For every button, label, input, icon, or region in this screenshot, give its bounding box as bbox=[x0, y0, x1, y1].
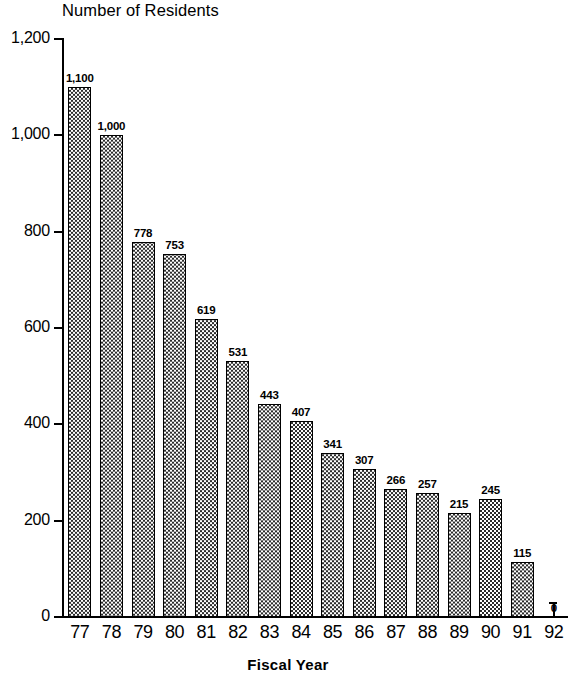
bar-value-label: 1,000 bbox=[85, 120, 137, 132]
bar-value-label: 257 bbox=[401, 478, 453, 490]
x-axis-tick-label: 80 bbox=[157, 622, 193, 643]
x-axis-tick-label: 77 bbox=[62, 622, 98, 643]
bar-value-label: 341 bbox=[307, 438, 359, 450]
x-axis-tick-label: 85 bbox=[315, 622, 351, 643]
x-axis-tick-label: 86 bbox=[346, 622, 382, 643]
bar-value-label: 215 bbox=[433, 498, 485, 510]
bar bbox=[68, 87, 91, 617]
bar-value-label: 1,100 bbox=[54, 72, 106, 84]
bar-value-label: 753 bbox=[149, 239, 201, 251]
bar-value-label: 115 bbox=[496, 547, 548, 559]
x-axis-tick-label: 83 bbox=[251, 622, 287, 643]
y-axis-tick-label: 1,000 bbox=[0, 125, 50, 143]
y-axis-tick-label: 200 bbox=[0, 511, 50, 529]
bar bbox=[384, 489, 407, 617]
bar bbox=[416, 493, 439, 617]
y-axis-tick-mark bbox=[54, 327, 63, 329]
y-axis-tick-label-text: 400 bbox=[24, 414, 50, 432]
bar-value-label: 245 bbox=[465, 484, 517, 496]
y-axis-tick-mark bbox=[54, 423, 63, 425]
bar bbox=[100, 135, 123, 617]
bar-value-label: 778 bbox=[117, 227, 169, 239]
x-axis-tick-label: 90 bbox=[473, 622, 509, 643]
y-axis-tick-label-text: 1,200 bbox=[11, 29, 50, 47]
bar-value-label: 0 bbox=[528, 602, 576, 614]
y-axis-tick-label-text: 1,000 bbox=[11, 125, 50, 143]
x-axis-tick-label: 88 bbox=[409, 622, 445, 643]
bar-value-label: 531 bbox=[212, 346, 264, 358]
y-axis-tick-label: 600 bbox=[0, 318, 50, 336]
bar-value-label: 443 bbox=[243, 389, 295, 401]
bar bbox=[321, 453, 344, 617]
bar bbox=[353, 469, 376, 617]
x-axis-tick-label: 89 bbox=[441, 622, 477, 643]
x-axis-tick-label: 92 bbox=[536, 622, 572, 643]
x-axis-tick-label: 82 bbox=[220, 622, 256, 643]
y-axis-tick-label: 400 bbox=[0, 414, 50, 432]
bar-value-label: 407 bbox=[275, 406, 327, 418]
y-axis-tick-label-text: 800 bbox=[24, 222, 50, 240]
x-axis-tick-label: 81 bbox=[188, 622, 224, 643]
bar bbox=[132, 242, 155, 617]
bar bbox=[195, 319, 218, 617]
bar-chart: Number of Residents 02004006008001,0001,… bbox=[0, 0, 576, 685]
x-axis-tick-label: 91 bbox=[504, 622, 540, 643]
y-axis-tick-mark bbox=[54, 616, 63, 618]
y-axis-tick-label: 800 bbox=[0, 222, 50, 240]
x-axis-tick-label: 78 bbox=[93, 622, 129, 643]
y-axis-tick-mark bbox=[54, 134, 63, 136]
bar bbox=[258, 404, 281, 617]
y-axis-tick-label-text: 600 bbox=[24, 318, 50, 336]
x-axis-tick-label: 84 bbox=[283, 622, 319, 643]
y-axis-tick-mark bbox=[54, 520, 63, 522]
y-axis-tick-mark bbox=[54, 231, 63, 233]
bar-value-label: 307 bbox=[338, 454, 390, 466]
y-axis-tick-mark bbox=[54, 38, 63, 40]
x-axis-title: Fiscal Year bbox=[0, 656, 576, 673]
x-axis-tick-label: 79 bbox=[125, 622, 161, 643]
bar bbox=[448, 513, 471, 617]
y-axis-tick-label-text: 0 bbox=[41, 607, 50, 625]
y-axis-tick-label: 0 bbox=[0, 607, 50, 625]
bar-value-label: 619 bbox=[180, 304, 232, 316]
y-axis-tick-label-text: 200 bbox=[24, 511, 50, 529]
x-axis-tick-label: 87 bbox=[378, 622, 414, 643]
y-axis-tick-label: 1,200 bbox=[0, 29, 50, 47]
chart-title: Number of Residents bbox=[62, 1, 219, 20]
bar bbox=[290, 421, 313, 617]
